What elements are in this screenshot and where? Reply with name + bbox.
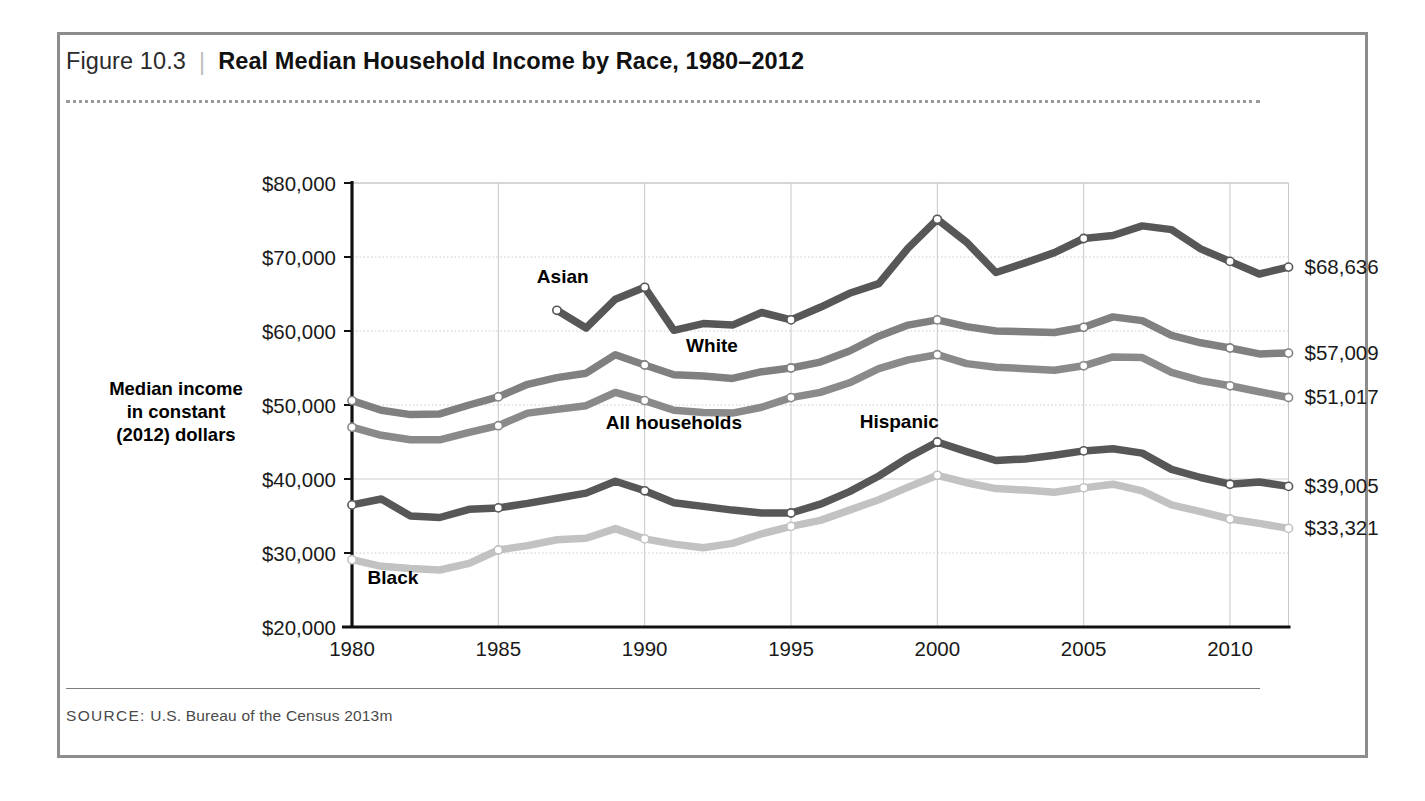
source-line: SOURCE: U.S. Bureau of the Census 2013m <box>66 707 1260 725</box>
figure-frame <box>57 32 1368 758</box>
figure-number: Figure 10.3 <box>66 48 186 75</box>
figure-title-separator: | <box>199 49 205 76</box>
figure-header: Figure 10.3 | Real Median Household Inco… <box>66 48 1385 108</box>
source-label: SOURCE: <box>66 707 146 724</box>
footer-rule <box>66 688 1260 689</box>
title-dotted-rule <box>66 100 1260 106</box>
figure-title: Real Median Household Income by Race, 19… <box>218 48 804 75</box>
figure-footer: SOURCE: U.S. Bureau of the Census 2013m <box>66 688 1260 725</box>
source-text: U.S. Bureau of the Census 2013m <box>150 707 392 724</box>
figure-title-row: Figure 10.3 | Real Median Household Inco… <box>66 48 1385 75</box>
